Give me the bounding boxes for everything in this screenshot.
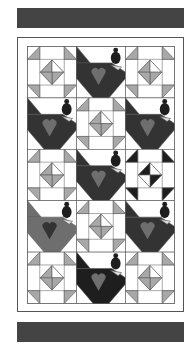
quilt-block-chicken-dark bbox=[126, 98, 175, 149]
quilt-block-star-grey bbox=[77, 98, 126, 149]
quilt-pattern bbox=[0, 0, 196, 356]
bottom-binding-bar bbox=[17, 322, 184, 342]
quilt-block-star-grey bbox=[126, 47, 175, 98]
quilt-block-star-grey bbox=[77, 201, 126, 252]
quilt-block-chicken-dark bbox=[126, 201, 175, 252]
quilt-block-chicken-dark bbox=[77, 47, 126, 98]
quilt-block-star-grey bbox=[28, 47, 77, 98]
quilt-block-star-dark bbox=[126, 149, 175, 200]
quilt-block-chicken-dark bbox=[28, 98, 77, 149]
quilt-block-star-grey bbox=[28, 252, 77, 303]
quilt-block-star-grey bbox=[28, 149, 77, 200]
quilt-block-chicken-medium bbox=[28, 201, 77, 252]
quilt-block-chicken-darkest bbox=[77, 252, 126, 303]
quilt-block-chicken-dark bbox=[77, 149, 126, 200]
quilt-block-star-grey bbox=[126, 252, 175, 303]
